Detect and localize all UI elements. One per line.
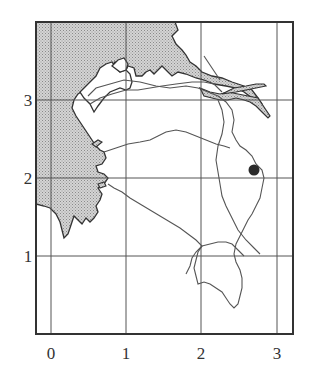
x-tick-2: 2 — [197, 344, 206, 363]
y-axis-labels: 3 2 1 — [24, 91, 33, 266]
y-tick-3: 3 — [24, 91, 33, 110]
x-tick-1: 1 — [122, 344, 131, 363]
map-figure: 0 1 2 3 3 2 1 — [0, 0, 309, 375]
route-central — [104, 130, 230, 152]
location-marker — [249, 165, 260, 176]
route-east — [216, 100, 260, 254]
x-tick-0: 0 — [47, 344, 56, 363]
x-tick-3: 3 — [273, 344, 282, 363]
y-tick-1: 1 — [24, 247, 33, 266]
y-tick-2: 2 — [24, 169, 33, 188]
island-outline — [88, 80, 264, 308]
route-south — [202, 242, 244, 256]
x-axis-labels: 0 1 2 3 — [47, 344, 282, 363]
land-mass — [36, 22, 262, 238]
